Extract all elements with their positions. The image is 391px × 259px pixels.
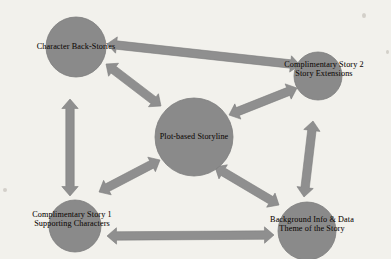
node-circle-character-back-stories[interactable] <box>46 17 106 77</box>
connector-arrow <box>107 37 300 72</box>
connector-arrow <box>99 157 160 195</box>
diagram-canvas: Character Back-StoriesComplimentary Stor… <box>0 0 391 259</box>
connector-arrow <box>297 121 320 197</box>
artifact-speck <box>362 13 366 18</box>
connector-arrow <box>106 63 161 107</box>
node-circle-background-info-data[interactable] <box>278 202 336 259</box>
artifact-speck <box>386 50 389 54</box>
connector-arrow <box>215 165 279 207</box>
artifact-speck <box>3 188 7 192</box>
node-circle-complimentary-story-2[interactable] <box>294 52 342 100</box>
connector-arrow <box>107 227 274 244</box>
diagram-graphics <box>0 0 391 259</box>
node-circle-complimentary-story-1[interactable] <box>49 200 101 252</box>
node-circle-plot-based-storyline[interactable] <box>155 98 233 176</box>
connector-arrow <box>62 99 78 196</box>
connector-arrow <box>229 84 297 119</box>
